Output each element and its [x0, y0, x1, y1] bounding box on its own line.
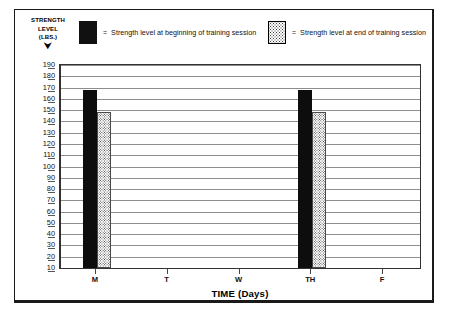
x-tick-mark — [167, 269, 168, 274]
x-tick-mark — [310, 269, 311, 274]
y-tick-mark — [48, 260, 55, 261]
chart-legend: STRENGTH LEVEL (LBS.) ⮟ = Strength level… — [15, 10, 432, 56]
y-tick-mark — [48, 181, 55, 182]
y-axis-caption-line3: (LBS.) — [39, 34, 57, 40]
y-axis-caption-line1: STRENGTH — [31, 17, 65, 23]
gridline — [61, 110, 420, 111]
gridline — [61, 189, 420, 190]
y-tick-mark — [48, 147, 55, 148]
x-tick-label: W — [224, 275, 254, 284]
gridline — [61, 88, 420, 89]
y-tick-mark — [48, 91, 55, 92]
legend-item-end: = Strength level at end of training sess… — [268, 21, 426, 44]
y-tick-mark — [48, 226, 55, 227]
gridline — [61, 133, 420, 134]
x-tick-label: TH — [295, 275, 325, 284]
x-tick-label: F — [367, 275, 397, 284]
legend-label-begin: Strength level at beginning of training … — [111, 28, 256, 37]
gridline — [61, 245, 420, 246]
y-axis-caption: STRENGTH LEVEL (LBS.) ⮟ — [19, 16, 77, 50]
legend-label-end: Strength level at end of training sessio… — [300, 28, 426, 37]
down-arrow-icon: ⮟ — [19, 42, 77, 50]
y-tick-mark — [48, 170, 55, 171]
gridline — [61, 200, 420, 201]
gridline — [61, 178, 420, 179]
solid-black-swatch-icon — [79, 21, 97, 44]
y-tick-mark — [48, 124, 55, 125]
y-tick-mark — [48, 215, 55, 216]
plot-area — [59, 64, 421, 269]
gridline — [61, 223, 420, 224]
bar-m-end — [97, 112, 111, 268]
gridline — [61, 234, 420, 235]
y-tick-mark — [48, 203, 55, 204]
y-axis-labels: 1901801701601501401301201101009080706050… — [15, 64, 55, 269]
bar-m-begin — [83, 90, 97, 268]
x-tick-mark — [382, 269, 383, 274]
gridline — [61, 121, 420, 122]
x-tick-mark — [239, 269, 240, 274]
legend-equals-begin: = — [103, 29, 107, 36]
chart-plot-wrapper: 1901801701601501401301201101009080706050… — [15, 56, 432, 300]
y-tick-mark — [48, 271, 55, 272]
y-tick-mark — [48, 102, 55, 103]
bar-th-end — [312, 112, 326, 268]
y-tick-mark — [48, 192, 55, 193]
gridline — [61, 257, 420, 258]
legend-equals-end: = — [292, 29, 296, 36]
y-tick-mark — [48, 113, 55, 114]
bar-th-begin — [298, 90, 312, 268]
gridline — [61, 99, 420, 100]
y-tick-mark — [48, 248, 55, 249]
gridline — [61, 65, 420, 66]
x-tick-label: M — [80, 275, 110, 284]
legend-item-begin: = Strength level at beginning of trainin… — [79, 21, 256, 44]
x-axis-title: TIME (Days) — [59, 288, 421, 299]
gridline — [61, 167, 420, 168]
y-tick-mark — [48, 158, 55, 159]
gridline — [61, 212, 420, 213]
y-tick-mark — [48, 79, 55, 80]
y-tick-mark — [48, 136, 55, 137]
dotted-swatch-icon — [268, 21, 286, 44]
y-tick-mark — [48, 68, 55, 69]
y-axis-caption-line2: LEVEL — [38, 26, 58, 32]
chart-figure-frame: STRENGTH LEVEL (LBS.) ⮟ = Strength level… — [14, 9, 434, 303]
y-tick-mark — [48, 237, 55, 238]
gridline — [61, 76, 420, 77]
gridline — [61, 144, 420, 145]
x-tick-label: T — [152, 275, 182, 284]
x-tick-mark — [95, 269, 96, 274]
gridline — [61, 155, 420, 156]
